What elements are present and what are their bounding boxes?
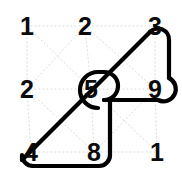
cell-value-r0c2[interactable]: 3 xyxy=(138,9,172,43)
puzzle-canvas: 1 2 3 2 5 9 4 8 1 xyxy=(0,0,182,178)
cell-value-r2c2[interactable]: 1 xyxy=(140,135,174,169)
cell-value-r2c0[interactable]: 4 xyxy=(14,135,48,169)
cell-value-r1c1[interactable]: 5 xyxy=(74,72,108,106)
cell-value-r0c0[interactable]: 1 xyxy=(10,9,44,43)
cell-value-r1c0[interactable]: 2 xyxy=(10,72,44,106)
cell-value-r2c1[interactable]: 8 xyxy=(77,135,111,169)
cell-value-r0c1[interactable]: 2 xyxy=(68,9,102,43)
cell-value-r1c2[interactable]: 9 xyxy=(138,72,172,106)
